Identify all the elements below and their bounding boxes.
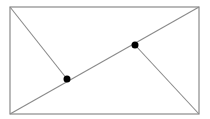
perpendicular-line-bottom-right <box>135 45 199 114</box>
foot-point-2 <box>132 42 139 49</box>
perpendicular-line-top-left <box>10 7 67 79</box>
geometry-diagram <box>0 0 210 119</box>
diagonal-line <box>10 7 199 114</box>
foot-point-1 <box>64 76 71 83</box>
